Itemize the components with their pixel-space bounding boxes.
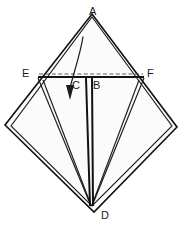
vertex-label-f: F bbox=[147, 68, 154, 79]
vertex-label-a: A bbox=[89, 6, 96, 17]
diagram-canvas bbox=[0, 0, 185, 234]
vertex-label-d: D bbox=[101, 210, 109, 221]
paper-fill-outer bbox=[5, 14, 177, 212]
vertex-label-b: B bbox=[93, 80, 100, 91]
center-spine-right bbox=[92, 78, 93, 206]
vertex-label-c: C bbox=[72, 80, 80, 91]
vertex-label-e: E bbox=[22, 68, 29, 79]
origami-diagram: A E F C B D bbox=[0, 0, 185, 234]
